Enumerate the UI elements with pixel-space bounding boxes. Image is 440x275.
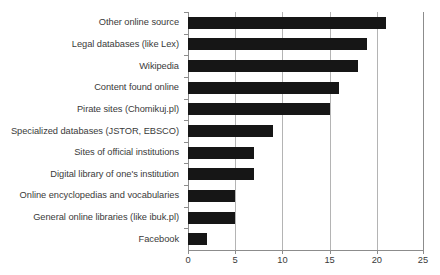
- bar-row: [188, 207, 424, 229]
- bar: [188, 17, 386, 29]
- bar-chart: Other online sourceLegal databases (like…: [0, 0, 440, 275]
- x-tick: [188, 250, 189, 254]
- bar-row: [188, 55, 424, 77]
- category-label: Specialized databases (JSTOR, EBSCO): [11, 126, 179, 137]
- x-tick: [330, 250, 331, 254]
- bar: [188, 147, 254, 159]
- bar-row: [188, 185, 424, 207]
- x-tick-label: 15: [324, 255, 334, 265]
- category-label-row: Facebook: [0, 228, 184, 250]
- category-label-row: Wikipedia: [0, 55, 184, 77]
- x-tick: [235, 250, 236, 254]
- bar: [188, 190, 235, 202]
- bar: [188, 103, 330, 115]
- bar: [188, 212, 235, 224]
- x-tick: [423, 250, 424, 254]
- bar-row: [188, 99, 424, 121]
- bar-series: [188, 12, 424, 250]
- category-label: Legal databases (like Lex): [72, 39, 179, 50]
- bar-row: [188, 228, 424, 250]
- category-label-row: Sites of official institutions: [0, 142, 184, 164]
- category-label-row: Pirate sites (Chomikuj.pl): [0, 99, 184, 121]
- x-axis-tick-labels: 0510152025: [188, 255, 424, 271]
- bar: [188, 168, 254, 180]
- bar-row: [188, 163, 424, 185]
- bar: [188, 125, 273, 137]
- x-tick-label: 0: [185, 255, 190, 265]
- category-label-row: Content found online: [0, 77, 184, 99]
- category-label: Other online source: [99, 17, 179, 28]
- category-label-row: Online encyclopedias and vocabularies: [0, 185, 184, 207]
- bar-row: [188, 120, 424, 142]
- x-tick-label: 5: [233, 255, 238, 265]
- category-axis-labels: Other online sourceLegal databases (like…: [0, 12, 184, 250]
- x-tick-label: 10: [277, 255, 287, 265]
- bar-row: [188, 77, 424, 99]
- x-tick-label: 20: [372, 255, 382, 265]
- category-label: Digital library of one's institution: [50, 169, 179, 180]
- category-label: Sites of official institutions: [74, 147, 179, 158]
- x-tick: [377, 250, 378, 254]
- category-label-row: Digital library of one's institution: [0, 163, 184, 185]
- x-tick-label: 25: [418, 255, 428, 265]
- category-label: Pirate sites (Chomikuj.pl): [77, 104, 179, 115]
- category-label-row: General online libraries (like ibuk.pl): [0, 207, 184, 229]
- bar: [188, 233, 207, 245]
- bar: [188, 60, 358, 72]
- plot-area: [188, 12, 424, 250]
- category-label: Online encyclopedias and vocabularies: [20, 190, 179, 201]
- category-label-row: Other online source: [0, 12, 184, 34]
- category-label: Wikipedia: [139, 61, 179, 72]
- bar-row: [188, 34, 424, 56]
- category-label-row: Legal databases (like Lex): [0, 34, 184, 56]
- category-label: General online libraries (like ibuk.pl): [33, 212, 179, 223]
- bar-row: [188, 12, 424, 34]
- bar-row: [188, 142, 424, 164]
- x-tick: [282, 250, 283, 254]
- category-label-row: Specialized databases (JSTOR, EBSCO): [0, 120, 184, 142]
- category-label: Content found online: [94, 82, 179, 93]
- bar: [188, 38, 367, 50]
- category-label: Facebook: [139, 234, 179, 245]
- bar: [188, 82, 339, 94]
